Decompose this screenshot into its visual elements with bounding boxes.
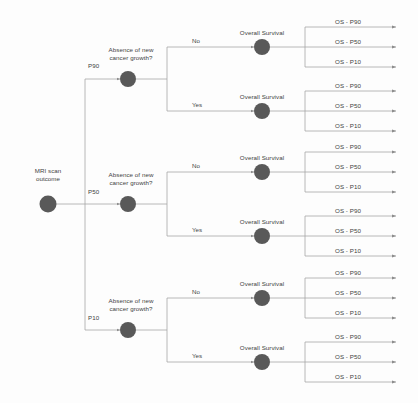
terminal-label-3-2: OS - P50 (335, 163, 361, 171)
root-node-label: MRI scan outcome (35, 167, 62, 182)
terminal-label-2-1: OS - P90 (335, 82, 361, 90)
survival-label-6: Overall Survival (240, 344, 284, 352)
survival-label-1: Overall Survival (240, 29, 284, 37)
root-label-line1: MRI scan (35, 167, 62, 175)
terminal-label-4-2: OS - P50 (335, 227, 361, 235)
branch-probability-p90: P90 (88, 62, 99, 70)
terminal-label-6-2: OS - P50 (335, 353, 361, 361)
root-label-line2: outcome (35, 175, 62, 183)
terminal-label-1-3: OS - P10 (335, 58, 361, 66)
terminal-label-1-1: OS - P90 (335, 18, 361, 26)
terminal-label-5-2: OS - P50 (335, 289, 361, 297)
decision-label-line2: cancer growth? (100, 179, 162, 187)
survival-label-2: Overall Survival (240, 93, 284, 101)
terminal-label-1-2: OS - P50 (335, 38, 361, 46)
answer-label-p50-no: No (192, 162, 200, 170)
decision-node-label-p10: Absence of new cancer growth? (100, 297, 162, 312)
decision-label-line2: cancer growth? (100, 54, 162, 62)
survival-label-3: Overall Survival (240, 154, 284, 162)
branch-probability-p50: P50 (88, 188, 99, 196)
decision-node-label-p50: Absence of new cancer growth? (100, 171, 162, 186)
survival-node-1-circle (254, 39, 270, 55)
decision-node-p50-circle (120, 196, 136, 212)
survival-node-6-circle (254, 354, 270, 370)
decision-tree-diagram: MRI scan outcome P90 Absence of new canc… (0, 0, 418, 403)
survival-node-2-circle (254, 103, 270, 119)
decision-label-line1: Absence of new (100, 171, 162, 179)
survival-label-4: Overall Survival (240, 218, 284, 226)
root-node-circle (40, 196, 57, 213)
decision-label-line1: Absence of new (100, 297, 162, 305)
branch-probability-p10: P10 (88, 314, 99, 322)
decision-node-p90-circle (120, 71, 136, 87)
terminal-label-4-1: OS - P90 (335, 207, 361, 215)
answer-label-p10-yes: Yes (192, 352, 202, 360)
terminal-label-6-3: OS - P10 (335, 373, 361, 381)
decision-node-p10-circle (120, 322, 136, 338)
terminal-label-6-1: OS - P90 (335, 333, 361, 341)
answer-label-p90-no: No (192, 37, 200, 45)
terminal-label-3-3: OS - P10 (335, 183, 361, 191)
terminal-label-3-1: OS - P90 (335, 143, 361, 151)
terminal-label-5-3: OS - P10 (335, 309, 361, 317)
terminal-label-5-1: OS - P90 (335, 269, 361, 277)
survival-node-3-circle (254, 164, 270, 180)
survival-node-5-circle (254, 290, 270, 306)
survival-label-5: Overall Survival (240, 280, 284, 288)
terminal-label-4-3: OS - P10 (335, 247, 361, 255)
survival-node-4-circle (254, 228, 270, 244)
answer-label-p90-yes: Yes (192, 101, 202, 109)
answer-label-p50-yes: Yes (192, 226, 202, 234)
terminal-label-2-3: OS - P10 (335, 122, 361, 130)
terminal-label-2-2: OS - P50 (335, 102, 361, 110)
decision-label-line2: cancer growth? (100, 305, 162, 313)
decision-label-line1: Absence of new (100, 46, 162, 54)
decision-node-label-p90: Absence of new cancer growth? (100, 46, 162, 61)
answer-label-p10-no: No (192, 288, 200, 296)
